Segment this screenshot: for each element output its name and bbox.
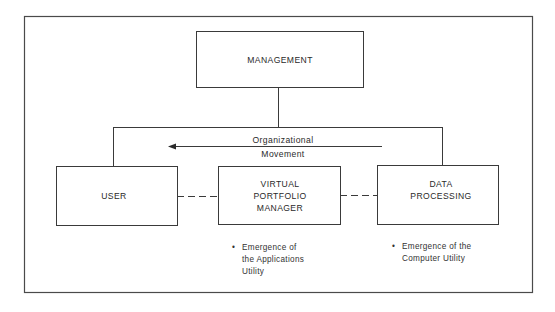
note-vpm-line-3: Utility [242, 267, 265, 276]
node-dp-label-line-1: DATA [429, 179, 452, 189]
note-vpm-line-2: the Applications [242, 255, 304, 264]
movement-label-line-1: Organizational [252, 135, 313, 145]
note-dp-line-2: Computer Utility [402, 254, 466, 263]
node-data-processing: DATA PROCESSING [378, 166, 499, 225]
node-user-label: USER [101, 191, 126, 201]
note-vpm-bullet-icon: • [232, 243, 235, 252]
note-dp-line-1: Emergence of the [402, 242, 472, 251]
node-virtual-portfolio-manager: VIRTUAL PORTFOLIO MANAGER [219, 167, 341, 225]
node-management: MANAGEMENT [197, 32, 364, 88]
diagram-canvas: Organizational Movement MANAGEMENT USER … [0, 0, 555, 312]
movement-label-line-2: Movement [261, 149, 305, 159]
node-management-label: MANAGEMENT [247, 55, 313, 65]
node-dp-label-line-2: PROCESSING [410, 191, 471, 201]
node-vpm-label-line-2: PORTFOLIO [253, 191, 306, 201]
node-vpm-label-line-1: VIRTUAL [261, 179, 300, 189]
node-vpm-label-line-3: MANAGER [257, 203, 303, 213]
note-dp-bullet-icon: • [392, 242, 395, 251]
note-vpm-line-1: Emergence of [242, 243, 297, 252]
node-user: USER [57, 167, 178, 226]
